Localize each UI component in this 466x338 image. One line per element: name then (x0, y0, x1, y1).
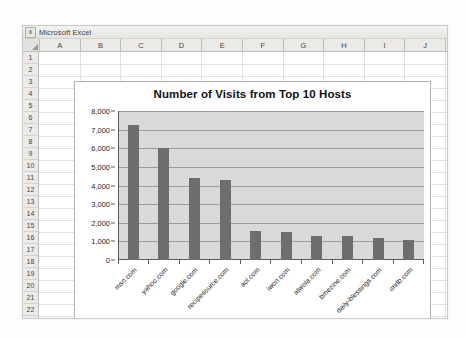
row-header-16[interactable]: 16 (23, 232, 38, 244)
y-axis-tick-label: 1,000 (91, 237, 110, 246)
column-header-row: ABCDEFGHIJ (23, 39, 447, 52)
bar-slot (363, 111, 394, 260)
row-header-2[interactable]: 2 (23, 64, 38, 76)
y-axis-tick (111, 241, 115, 242)
row-header-18[interactable]: 18 (23, 256, 38, 268)
chart-object[interactable]: Number of Visits from Top 10 Hosts 8,000… (74, 81, 431, 318)
row-header-3[interactable]: 3 (23, 76, 38, 88)
column-header-a[interactable]: A (40, 39, 81, 51)
row-header-12[interactable]: 12 (23, 184, 38, 196)
select-all-corner[interactable] (23, 39, 40, 51)
excel-window: X Microsoft Excel ABCDEFGHIJ 12345678910… (22, 25, 448, 319)
row-header-column: 12345678910111213141516171819202122 (23, 52, 39, 318)
row-header-15[interactable]: 15 (23, 220, 38, 232)
row-header-9[interactable]: 9 (23, 148, 38, 160)
bar-slot (240, 111, 271, 260)
y-axis-tick-label: 3,000 (91, 200, 110, 209)
window-title: Microsoft Excel (39, 28, 91, 37)
y-axis-tick (111, 129, 115, 130)
x-axis-labels: msn.comyahoo.comgoogle.comrecipesource.c… (118, 264, 424, 318)
row-header-5[interactable]: 5 (23, 100, 38, 112)
row-header-8[interactable]: 8 (23, 136, 38, 148)
bar[interactable] (220, 180, 231, 260)
row-header-22[interactable]: 22 (23, 304, 38, 316)
bar[interactable] (373, 238, 384, 260)
row-header-7[interactable]: 7 (23, 124, 38, 136)
y-axis-tick-label: 6,000 (91, 144, 110, 153)
x-axis-tick-label: aol.com (238, 266, 260, 288)
x-axis-tick-label: msn.com (113, 266, 138, 291)
column-header-b[interactable]: B (81, 39, 122, 51)
y-axis-tick-label: 8,000 (91, 107, 110, 116)
x-axis-label-slot: recipesource.com (210, 264, 241, 318)
plot-area (118, 111, 424, 260)
bar-slot (210, 111, 241, 260)
column-header-j[interactable]: J (405, 39, 446, 51)
y-axis-tick (111, 222, 115, 223)
y-axis-tick (111, 204, 115, 205)
bar-slot (302, 111, 333, 260)
y-axis-tick-label: 0 (106, 256, 110, 265)
bar[interactable] (281, 232, 292, 260)
worksheet-grid[interactable]: Number of Visits from Top 10 Hosts 8,000… (39, 52, 447, 318)
excel-x-icon: X (25, 27, 36, 38)
x-axis-label-slot: imdb.com (393, 264, 424, 318)
row-header-14[interactable]: 14 (23, 208, 38, 220)
row-header-10[interactable]: 10 (23, 160, 38, 172)
grid-hline (39, 64, 447, 65)
y-axis-tick-label: 7,000 (91, 125, 110, 134)
bar[interactable] (342, 236, 353, 260)
y-axis-tick (111, 260, 115, 261)
y-axis-tick (111, 111, 115, 112)
row-header-13[interactable]: 13 (23, 196, 38, 208)
screenshot-root: X Microsoft Excel ABCDEFGHIJ 12345678910… (0, 0, 466, 338)
row-header-1[interactable]: 1 (23, 52, 38, 64)
y-axis-tick-label: 4,000 (91, 181, 110, 190)
bar[interactable] (128, 125, 139, 260)
window-titlebar: X Microsoft Excel (23, 26, 447, 39)
y-axis-tick-label: 2,000 (91, 218, 110, 227)
bar-slot (149, 111, 180, 260)
row-header-17[interactable]: 17 (23, 244, 38, 256)
column-header-i[interactable]: I (365, 39, 406, 51)
bar-slot (393, 111, 424, 260)
y-axis-tick (111, 148, 115, 149)
y-axis-tick (111, 166, 115, 167)
grid-hline (39, 76, 447, 77)
column-header-h[interactable]: H (324, 39, 365, 51)
y-axis-tick (111, 185, 115, 186)
column-header-f[interactable]: F (243, 39, 284, 51)
bar[interactable] (311, 236, 322, 260)
row-header-4[interactable]: 4 (23, 88, 38, 100)
bar-slot (179, 111, 210, 260)
bar[interactable] (403, 240, 414, 260)
x-axis-label-slot: aol.com (240, 264, 271, 318)
row-header-11[interactable]: 11 (23, 172, 38, 184)
x-axis-label-slot: daily-blessings.com (363, 264, 394, 318)
bar[interactable] (189, 178, 200, 260)
bar-slot (118, 111, 149, 260)
column-header-g[interactable]: G (284, 39, 325, 51)
y-axis: 8,0007,0006,0005,0004,0003,0002,0001,000… (75, 111, 115, 260)
column-header-d[interactable]: D (162, 39, 203, 51)
bar[interactable] (158, 148, 169, 260)
bar[interactable] (250, 231, 261, 260)
grid-vline (445, 52, 446, 318)
bar-slot (271, 111, 302, 260)
column-header-c[interactable]: C (121, 39, 162, 51)
row-header-21[interactable]: 21 (23, 292, 38, 304)
row-header-6[interactable]: 6 (23, 112, 38, 124)
row-header-20[interactable]: 20 (23, 280, 38, 292)
bar-slot (332, 111, 363, 260)
column-header-e[interactable]: E (202, 39, 243, 51)
chart-title: Number of Visits from Top 10 Hosts (75, 88, 430, 100)
row-header-19[interactable]: 19 (23, 268, 38, 280)
bar-series (118, 111, 424, 260)
y-axis-tick-label: 5,000 (91, 162, 110, 171)
